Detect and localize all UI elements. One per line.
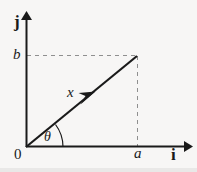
x-component-label-a: a [134,146,142,161]
vector-diagram-figure: j i b a x 0 θ [0,0,197,172]
angle-label-theta: θ [44,130,51,144]
bottom-edge-band [0,168,197,172]
diagram-canvas [0,0,197,172]
vector-label-x: x [67,85,74,100]
y-axis-arrowhead-icon [21,11,32,20]
y-component-label-b: b [13,47,21,62]
angle-arc-theta [56,125,64,148]
y-axis-basis-label: j [14,13,20,30]
x-axis-basis-label: i [171,146,176,163]
vector-ray-x [26,56,137,147]
origin-label: 0 [14,147,22,162]
x-axis-arrowhead-icon [184,141,193,152]
